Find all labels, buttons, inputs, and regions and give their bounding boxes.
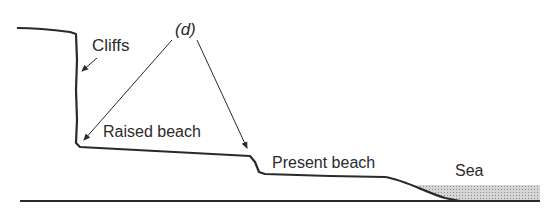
present-beach-label: Present beach [272, 155, 375, 171]
sea-label: Sea [455, 163, 483, 179]
land-profile [17, 28, 460, 201]
d-arrow-present-beach [197, 40, 247, 148]
cliffs-label: Cliffs [92, 37, 129, 54]
raised-beach-label: Raised beach [103, 124, 201, 140]
cliffs-arrow [82, 58, 97, 71]
coastal-profile-diagram [0, 0, 550, 220]
d-marker-label: (d) [175, 21, 196, 38]
